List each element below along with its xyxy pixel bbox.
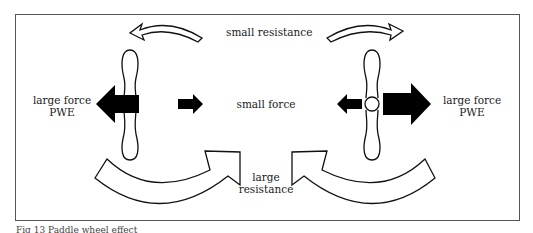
- right-pwe-line2: PWE: [440, 106, 504, 118]
- left-pwe-line2: PWE: [30, 106, 94, 118]
- small-force-label: small force: [230, 98, 302, 110]
- large-rotation-arrow-right-icon: [292, 151, 435, 204]
- small-force-arrow-right-icon: [178, 94, 203, 114]
- large-resistance-line2: resistance: [232, 183, 300, 195]
- large-force-arrow-left-icon: [96, 85, 139, 123]
- large-resistance-label: large resistance: [232, 171, 300, 195]
- propeller-right-icon: [364, 50, 380, 160]
- left-large-force-line1: large force: [30, 94, 94, 106]
- small-resistance-label: small resistance: [226, 26, 306, 38]
- right-large-force-label: large force PWE: [440, 94, 504, 118]
- figure-caption: Fig 13 Paddle wheel effect: [16, 225, 137, 233]
- large-rotation-arrow-left-icon: [95, 151, 240, 204]
- small-force-arrow-left-icon: [337, 94, 362, 114]
- left-large-force-label: large force PWE: [30, 94, 94, 118]
- right-large-force-line1: large force: [440, 94, 504, 106]
- large-resistance-line1: large: [232, 171, 300, 183]
- large-force-arrow-right-icon: [383, 83, 431, 125]
- small-rotation-arrow-right-icon: [327, 24, 403, 42]
- small-rotation-arrow-left-icon: [130, 24, 202, 42]
